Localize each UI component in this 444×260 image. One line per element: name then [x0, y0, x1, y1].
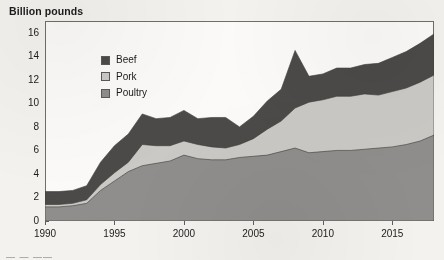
- beef-color-swatch-icon: [101, 56, 110, 65]
- y-tick-label: 4: [9, 169, 39, 179]
- x-tick-label: 2000: [173, 228, 195, 239]
- y-tick-label: 2: [9, 192, 39, 202]
- y-tick-label: 12: [9, 75, 39, 85]
- x-axis: 199019952000200520102015: [45, 221, 434, 243]
- x-tick-mark: [253, 221, 254, 225]
- y-tick-label: 8: [9, 122, 39, 132]
- x-tick-mark: [184, 221, 185, 225]
- legend-item-beef: Beef: [101, 55, 147, 65]
- x-tick-mark: [45, 221, 46, 225]
- x-tick-mark: [323, 221, 324, 225]
- y-tick-label: 16: [9, 28, 39, 38]
- pork-color-swatch-icon: [101, 72, 110, 81]
- chart-legend: Beef Pork Poultry: [101, 55, 147, 98]
- plot-area: Beef Pork Poultry: [45, 21, 434, 221]
- legend-item-pork: Pork: [101, 72, 147, 82]
- x-tick-label: 1995: [103, 228, 125, 239]
- y-tick-label: 10: [9, 98, 39, 108]
- stacked-area-svg: [45, 21, 434, 221]
- page-footer-fragment: — — —— —: [6, 252, 66, 259]
- y-axis: 1614121086420: [8, 21, 39, 221]
- x-tick-mark: [114, 221, 115, 225]
- y-tick-label: 0: [9, 216, 39, 226]
- x-tick-label: 1990: [34, 228, 56, 239]
- legend-label-pork: Pork: [116, 72, 137, 82]
- legend-item-poultry: Poultry: [101, 88, 147, 98]
- x-tick-label: 2010: [312, 228, 334, 239]
- y-tick-label: 14: [9, 51, 39, 61]
- legend-label-beef: Beef: [116, 55, 137, 65]
- y-tick-label: 6: [9, 145, 39, 155]
- x-tick-label: 2015: [381, 228, 403, 239]
- legend-label-poultry: Poultry: [116, 88, 147, 98]
- poultry-color-swatch-icon: [101, 89, 110, 98]
- x-tick-label: 2005: [242, 228, 264, 239]
- chart-title: Billion pounds: [9, 5, 83, 17]
- x-tick-mark: [392, 221, 393, 225]
